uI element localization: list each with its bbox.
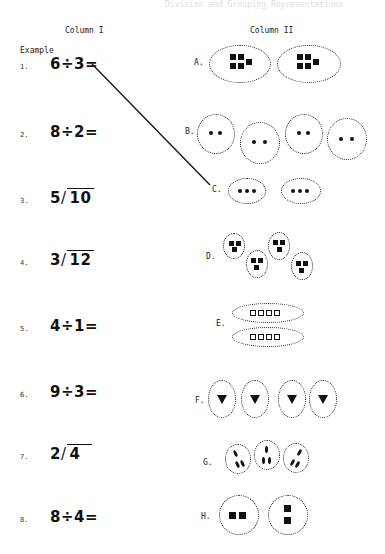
picture-label-c: C. <box>212 185 222 194</box>
picture-label-g: G. <box>203 458 213 467</box>
example-match-line <box>0 0 385 554</box>
picture-label-d: D. <box>206 252 216 261</box>
picture-label-e: E. <box>216 319 226 328</box>
picture-label-a: A. <box>194 58 204 67</box>
picture-label-b: B. <box>185 127 195 136</box>
picture-label-f: F. <box>195 396 205 405</box>
picture-label-h: H. <box>201 512 211 521</box>
